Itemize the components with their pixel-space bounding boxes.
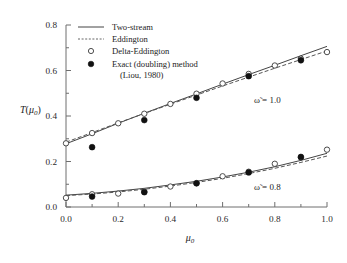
data-points-group [63, 49, 329, 200]
legend-marker-exact-doubling [88, 61, 94, 67]
data-point-open [63, 195, 68, 200]
series-line-dashed [66, 156, 327, 196]
data-point-open [116, 191, 121, 196]
x-tick-label: 0.6 [217, 214, 229, 224]
x-axis-title: μ0 [185, 232, 195, 245]
data-point-filled [89, 194, 95, 200]
annotation-label: ω̃ = 0.8 [254, 182, 281, 192]
data-point-filled [194, 180, 200, 186]
data-point-open [272, 63, 277, 68]
x-tick-label: 0.4 [165, 214, 177, 224]
data-point-filled [141, 117, 147, 123]
x-tick-label: 0.0 [60, 214, 72, 224]
y-tick-label: 0.2 [46, 157, 58, 167]
chart-svg: 0.00.20.40.60.81.00.00.20.40.60.8 T(μ0) … [0, 0, 347, 263]
y-axis-title-text: T(μ0) [20, 104, 41, 117]
data-point-open [63, 141, 68, 146]
data-point-open [89, 130, 94, 135]
y-axis-title: T(μ0) [20, 104, 41, 117]
data-point-open [168, 184, 173, 189]
legend-label-exact-doubling: Exact (doubling) method [112, 59, 199, 69]
data-point-open [220, 174, 225, 179]
data-point-open [324, 49, 329, 54]
annotation-label: ω̃ = 1.0 [254, 95, 281, 105]
annotations-group: ω̃ = 1.0ω̃ = 0.8 [254, 95, 281, 191]
y-tick-label: 0.0 [46, 202, 58, 212]
legend-label-eddington: Eddington [112, 34, 149, 44]
series-line-solid [66, 153, 327, 195]
legend-label-delta-eddington: Delta-Eddington [112, 46, 170, 56]
x-tick-label: 0.8 [269, 214, 281, 224]
y-tick-label: 0.8 [46, 20, 58, 30]
data-point-open [116, 121, 121, 126]
legend-label-exact-doubling-citation: (Liou, 1980) [120, 70, 164, 80]
data-point-filled [246, 170, 252, 176]
data-point-filled [246, 73, 252, 79]
x-tick-label: 0.2 [112, 214, 124, 224]
data-point-filled [194, 95, 200, 101]
x-tick-label: 1.0 [321, 214, 333, 224]
data-point-open [272, 161, 277, 166]
data-point-filled [141, 189, 147, 195]
ticks-group [66, 25, 327, 207]
data-point-filled [298, 154, 304, 160]
data-point-filled [89, 144, 95, 150]
legend-marker-delta-eddington [88, 48, 93, 53]
y-tick-label: 0.6 [46, 66, 58, 76]
x-axis-title-text: μ0 [185, 232, 195, 245]
data-point-filled [298, 57, 304, 63]
data-point-open [220, 81, 225, 86]
axes-group [66, 25, 327, 207]
figure-container: 0.00.20.40.60.81.00.00.20.40.60.8 T(μ0) … [0, 0, 347, 263]
data-point-open [142, 111, 147, 116]
legend: Two-stream Eddington Delta-Eddington Exa… [78, 22, 199, 80]
y-tick-label: 0.4 [46, 111, 58, 121]
legend-label-two-stream: Two-stream [112, 22, 153, 32]
data-point-open [324, 147, 329, 152]
data-point-open [168, 101, 173, 106]
